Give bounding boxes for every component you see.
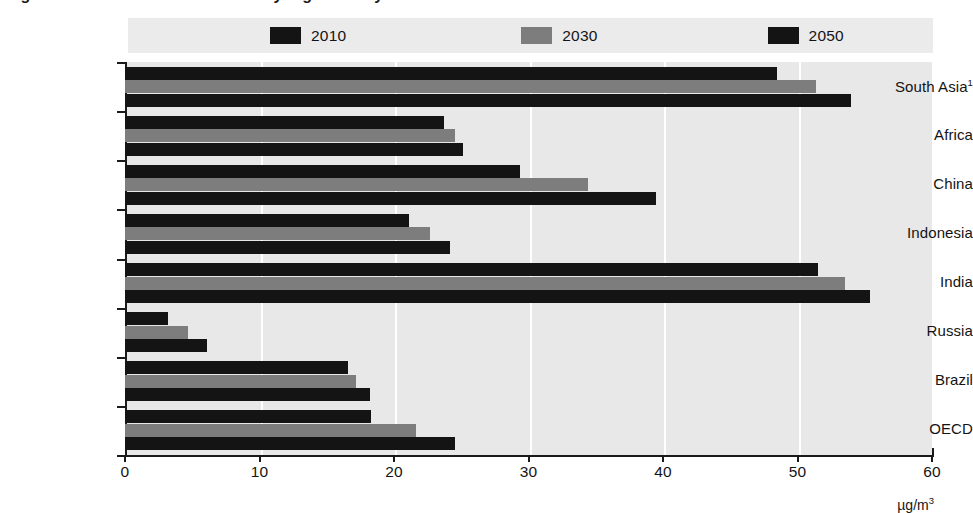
x-tick-label-30: 30 <box>509 463 549 481</box>
chart-page: Figure 1. Concentration of PM2.5 by regi… <box>0 0 973 513</box>
x-tick-30 <box>528 455 530 462</box>
x-tick-label-40: 40 <box>643 463 683 481</box>
bar-2050 <box>125 388 370 401</box>
figure-title: Figure 1. Concentration of PM2.5 by regi… <box>6 0 408 4</box>
plot-wrapper: 0102030405060South Asia1AfricaChinaIndon… <box>0 55 973 513</box>
bar-2050 <box>125 192 656 205</box>
bar-2030 <box>125 326 188 339</box>
y-axis-label-brazil: Brazil <box>860 371 973 388</box>
x-tick-60 <box>931 455 933 462</box>
x-tick-50 <box>797 455 799 462</box>
bar-2050 <box>125 94 851 107</box>
y-tick-3 <box>117 209 126 211</box>
bar-2050 <box>125 241 450 254</box>
legend-label-2030: 2030 <box>562 27 597 45</box>
bar-2010 <box>125 312 168 325</box>
unit-text: µg/m <box>897 497 928 513</box>
x-tick-label-10: 10 <box>240 463 280 481</box>
y-axis-label-africa: Africa <box>860 126 973 143</box>
x-tick-20 <box>393 455 395 462</box>
gridline-50 <box>799 62 801 455</box>
y-axis-label-southasia: South Asia1 <box>860 77 973 95</box>
legend-label-2010: 2010 <box>311 27 346 45</box>
bar-2050 <box>125 143 463 156</box>
x-tick-label-50: 50 <box>778 463 818 481</box>
x-tick-label-60: 60 <box>912 463 952 481</box>
bar-2030 <box>125 375 356 388</box>
y-tick-1 <box>117 111 126 113</box>
y-axis-label-text: South Asia <box>895 78 968 95</box>
bar-2010 <box>125 410 371 423</box>
bar-2050 <box>125 339 207 352</box>
bar-2050 <box>125 437 455 450</box>
legend-swatch-2050 <box>768 27 799 44</box>
y-tick-2 <box>117 160 126 162</box>
y-axis-label-russia: Russia <box>860 322 973 339</box>
y-tick-6 <box>117 357 126 359</box>
y-tick-4 <box>117 259 126 261</box>
gridline-60 <box>933 62 935 455</box>
gridline-40 <box>664 62 666 455</box>
bar-2030 <box>125 129 455 142</box>
bar-2010 <box>125 361 348 374</box>
chart-legend: 2010 2030 2050 <box>128 18 933 53</box>
y-tick-0 <box>117 62 126 64</box>
bar-2010 <box>125 165 520 178</box>
bar-2030 <box>125 277 845 290</box>
x-axis-unit-label: µg/m3 <box>897 495 934 513</box>
x-tick-label-20: 20 <box>374 463 414 481</box>
y-tick-7 <box>117 406 126 408</box>
legend-item-2010: 2010 <box>270 27 346 45</box>
bar-2010 <box>125 214 409 227</box>
bar-2010 <box>125 67 777 80</box>
unit-exponent: 3 <box>929 495 934 506</box>
bar-2030 <box>125 80 816 93</box>
y-axis-label-china: China <box>860 175 973 192</box>
legend-swatch-2030 <box>521 27 552 44</box>
y-tick-5 <box>117 308 126 310</box>
legend-item-2030: 2030 <box>521 27 597 45</box>
footnote-marker: 1 <box>968 77 973 88</box>
bar-2030 <box>125 227 430 240</box>
legend-label-2050: 2050 <box>809 27 844 45</box>
legend-swatch-2010 <box>270 27 301 44</box>
x-tick-10 <box>259 455 261 462</box>
y-axis-label-oecd: OECD <box>860 420 973 437</box>
x-axis-line <box>125 455 934 457</box>
bar-2010 <box>125 263 818 276</box>
x-tick-label-0: 0 <box>105 463 145 481</box>
y-axis-bottom-cap <box>117 455 126 457</box>
x-tick-40 <box>662 455 664 462</box>
y-axis-label-indonesia: Indonesia <box>860 224 973 241</box>
figure-title-strip: Figure 1. Concentration of PM2.5 by regi… <box>0 0 973 14</box>
legend-item-2050: 2050 <box>768 27 844 45</box>
bar-2030 <box>125 178 588 191</box>
bar-2010 <box>125 116 444 129</box>
gridline-30 <box>530 62 532 455</box>
bar-2050 <box>125 290 870 303</box>
bar-2030 <box>125 424 416 437</box>
y-axis-label-india: India <box>860 273 973 290</box>
